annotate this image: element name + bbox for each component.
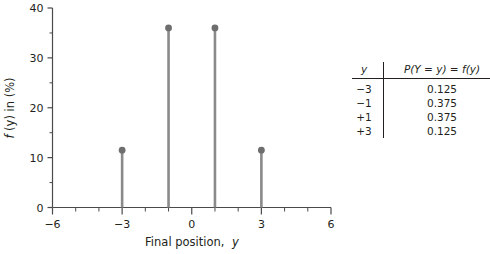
x-tick-label: 0 (188, 218, 195, 231)
probability-distribution-table: y P(Y = y) = f(y) −30.125−10.375+10.375+… (352, 62, 490, 138)
x-tick-label: 3 (258, 218, 265, 231)
stem-plot-figure: 010203040 −6−3036 Final position, y f (y… (0, 0, 340, 254)
pmf-table-head: y P(Y = y) = f(y) (352, 62, 490, 79)
x-axis-title: Final position, y (145, 235, 239, 249)
cell-y-value: +1 (352, 110, 384, 124)
stem-marker (258, 147, 265, 154)
x-axis-title-text: Final position, (145, 235, 224, 249)
y-tick-label: 40 (30, 2, 44, 15)
y-axis-title: f (y) in (%) (3, 77, 17, 138)
plot-axes (53, 8, 332, 208)
x-tick-label: −3 (114, 218, 130, 231)
y-tick-label: 30 (30, 52, 44, 65)
y-axis-title-text: (y) in (%) (3, 77, 17, 130)
cell-probability-value: 0.125 (384, 124, 490, 138)
stem-item (165, 25, 172, 208)
pmf-table-body: −30.125−10.375+10.375+30.125 (352, 79, 490, 139)
stem-marker (165, 25, 172, 32)
y-tick-label: 0 (37, 202, 44, 215)
column-header-probability: P(Y = y) = f(y) (384, 62, 490, 79)
column-header-probability-text: P(Y = y) = f(y) (404, 63, 480, 75)
y-axis-title-variable: f (3, 133, 17, 139)
stem-marker (119, 147, 126, 154)
cell-y-value: −1 (352, 96, 384, 110)
cell-probability-value: 0.375 (384, 96, 490, 110)
x-axis-tick-labels: −6−3036 (44, 218, 334, 231)
table-row: +10.375 (352, 110, 490, 124)
column-header-y: y (352, 62, 384, 79)
y-axis-ticks (48, 8, 53, 208)
stem-item (119, 147, 126, 208)
stem-item (258, 147, 265, 208)
y-tick-label: 20 (30, 102, 44, 115)
cell-probability-value: 0.125 (384, 79, 490, 97)
stem-plot-svg: 010203040 −6−3036 Final position, y f (y… (0, 0, 340, 254)
cell-y-value: −3 (352, 79, 384, 97)
cell-probability-value: 0.375 (384, 110, 490, 124)
table-row: +30.125 (352, 124, 490, 138)
stem-marker (212, 25, 219, 32)
stem-item (212, 25, 219, 208)
x-axis-title-variable: y (231, 235, 239, 249)
table-header-row: y P(Y = y) = f(y) (352, 62, 490, 79)
x-tick-label: −6 (44, 218, 60, 231)
x-tick-label: 6 (328, 218, 335, 231)
table-row: −10.375 (352, 96, 490, 110)
x-axis-ticks (53, 208, 332, 215)
y-axis-tick-labels: 010203040 (30, 2, 44, 215)
cell-y-value: +3 (352, 124, 384, 138)
pmf-table: y P(Y = y) = f(y) −30.125−10.375+10.375+… (352, 62, 490, 138)
stem-series (119, 25, 265, 208)
table-row: −30.125 (352, 79, 490, 97)
y-tick-label: 10 (30, 152, 44, 165)
